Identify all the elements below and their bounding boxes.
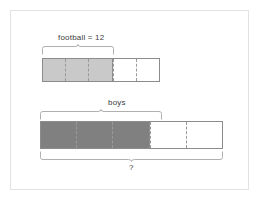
bar-cell xyxy=(113,59,136,81)
bar-cell xyxy=(65,59,88,81)
bar-cell xyxy=(186,122,222,148)
football-bar xyxy=(42,58,160,82)
bar-cell xyxy=(150,122,186,148)
boys-bar xyxy=(40,121,223,149)
diagram-canvas: football = 12 boys ? xyxy=(0,0,262,202)
bar-cell xyxy=(41,122,76,148)
unknown-total-label: ? xyxy=(129,164,134,172)
boys-brace xyxy=(40,109,162,120)
total-brace xyxy=(40,151,223,162)
bar-cell xyxy=(88,59,112,81)
bar-cell xyxy=(112,122,149,148)
boys-label: boys xyxy=(108,99,126,107)
football-brace xyxy=(42,44,114,55)
bar-cell xyxy=(43,59,65,81)
bar-cell xyxy=(136,59,159,81)
football-label: football = 12 xyxy=(58,34,104,42)
bar-cell xyxy=(76,122,112,148)
